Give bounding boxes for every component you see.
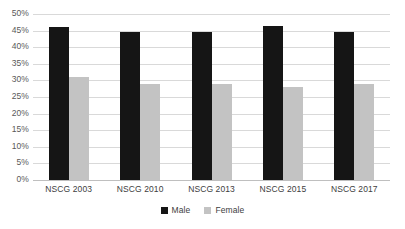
x-axis-tick-label: NSCG 2013 xyxy=(176,184,247,194)
bar-chart: 50%45%40%35%30%25%20%15%10%5%0% NSCG 200… xyxy=(0,0,405,229)
y-axis-tick-label: 40% xyxy=(0,41,29,51)
x-axis-labels: NSCG 2003NSCG 2010NSCG 2013NSCG 2015NSCG… xyxy=(33,184,390,194)
legend-item-female[interactable]: Female xyxy=(204,205,244,215)
bar-male[interactable] xyxy=(120,32,140,180)
bar-male[interactable] xyxy=(263,26,283,180)
x-axis-tick-label: NSCG 2003 xyxy=(33,184,104,194)
legend-swatch-icon xyxy=(204,207,211,214)
y-axis-tick-label: 20% xyxy=(0,108,29,118)
bar-female[interactable] xyxy=(283,87,303,180)
x-axis-tick-label: NSCG 2015 xyxy=(247,184,318,194)
y-axis-labels: 50%45%40%35%30%25%20%15%10%5%0% xyxy=(0,0,29,229)
bar-group xyxy=(33,14,104,180)
axis-baseline xyxy=(33,180,390,181)
bar-group xyxy=(104,14,175,180)
y-axis-tick-label: 30% xyxy=(0,74,29,84)
bar-female[interactable] xyxy=(354,84,374,180)
bar-group xyxy=(176,14,247,180)
bar-female[interactable] xyxy=(69,77,89,180)
bar-male[interactable] xyxy=(192,32,212,180)
x-axis-tick-label: NSCG 2010 xyxy=(104,184,175,194)
y-axis-tick-label: 5% xyxy=(0,157,29,167)
y-axis-tick-label: 50% xyxy=(0,8,29,18)
y-axis-tick-label: 35% xyxy=(0,58,29,68)
y-axis-tick-label: 0% xyxy=(0,174,29,184)
y-axis-tick-label: 15% xyxy=(0,124,29,134)
bar-male[interactable] xyxy=(334,32,354,180)
y-axis-tick-label: 45% xyxy=(0,25,29,35)
bar-groups xyxy=(33,14,390,180)
y-axis-tick-label: 25% xyxy=(0,91,29,101)
legend-swatch-icon xyxy=(161,207,168,214)
legend-item-male[interactable]: Male xyxy=(161,205,191,215)
chart-legend: MaleFemale xyxy=(0,205,405,215)
bar-female[interactable] xyxy=(140,84,160,180)
y-axis-tick-label: 10% xyxy=(0,141,29,151)
legend-label: Male xyxy=(172,205,191,215)
bar-male[interactable] xyxy=(49,27,69,180)
bar-female[interactable] xyxy=(212,84,232,180)
x-axis-tick-label: NSCG 2017 xyxy=(319,184,390,194)
bar-group xyxy=(247,14,318,180)
legend-label: Female xyxy=(215,205,244,215)
bar-group xyxy=(319,14,390,180)
